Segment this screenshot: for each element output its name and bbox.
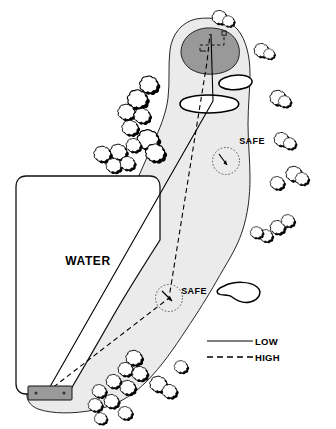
right-fairway-bunker bbox=[217, 282, 260, 302]
safe-label-upper: SAFE bbox=[239, 136, 265, 146]
legend-item-high: HIGH bbox=[207, 352, 280, 363]
hole-map-canvas: WATER SAFE SAFE LOW HIGH bbox=[0, 0, 336, 429]
cross-bunker bbox=[180, 95, 239, 113]
legend: LOW HIGH bbox=[207, 336, 280, 363]
water-label: WATER bbox=[65, 254, 110, 268]
tree-cluster-right bbox=[250, 90, 310, 243]
legend-label-high: HIGH bbox=[255, 352, 280, 363]
safe-label-lower: SAFE bbox=[181, 286, 207, 296]
legend-label-low: LOW bbox=[255, 336, 278, 347]
tee-box bbox=[28, 386, 72, 400]
legend-item-low: LOW bbox=[207, 336, 278, 347]
golf-hole-diagram: WATER SAFE SAFE LOW HIGH bbox=[0, 0, 336, 429]
tree-cluster-left bbox=[94, 76, 167, 174]
